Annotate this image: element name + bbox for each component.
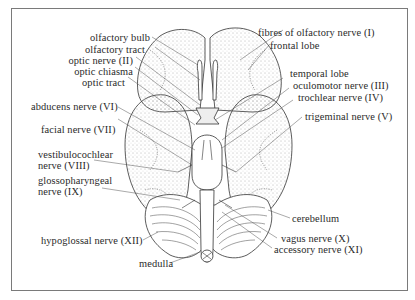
label-abducens-nerve: abducens nerve (VI) xyxy=(31,101,118,112)
label-facial-nerve: facial nerve (VII) xyxy=(41,124,115,135)
optic-chiasma xyxy=(196,108,219,124)
label-accessory-nerve: accessory nerve (XI) xyxy=(274,244,363,255)
label-trochlear-nerve: trochlear nerve (IV) xyxy=(298,92,383,103)
label-vestibulocochlear-line2: nerve (VIII) xyxy=(38,160,113,171)
label-vestibulocochlear-nerve: vestibulocochlear nerve (VIII) xyxy=(38,149,113,171)
medulla xyxy=(200,190,214,262)
label-optic-tract: optic tract xyxy=(82,77,125,88)
label-optic-nerve: optic nerve (II) xyxy=(69,55,134,66)
olfactory-tracts xyxy=(197,60,217,100)
label-olfactory-tract: olfactory tract xyxy=(85,44,145,55)
pons xyxy=(192,135,222,190)
label-vagus-nerve: vagus nerve (X) xyxy=(281,233,349,244)
label-temporal-lobe: temporal lobe xyxy=(290,68,349,79)
label-oculomotor-nerve: oculomotor nerve (III) xyxy=(293,80,389,91)
label-frontal-lobe: frontal lobe xyxy=(270,40,319,51)
label-glossopharyngeal-nerve: glossopharyngeal nerve (IX) xyxy=(38,175,112,197)
label-vestibulocochlear-line1: vestibulocochlear xyxy=(38,149,113,160)
label-optic-chiasma: optic chiasma xyxy=(74,66,133,77)
label-glossopharyngeal-line1: glossopharyngeal xyxy=(38,175,112,186)
label-glossopharyngeal-line2: nerve (IX) xyxy=(38,186,112,197)
label-medulla: medulla xyxy=(139,258,173,269)
label-fibres-olfactory-nerve: fibres of olfactory nerve (I) xyxy=(258,27,375,38)
label-trigeminal-nerve: trigeminal nerve (V) xyxy=(305,111,392,122)
label-olfactory-bulb: olfactory bulb xyxy=(90,32,150,43)
label-hypoglossal-nerve: hypoglossal nerve (XII) xyxy=(41,235,143,246)
label-cerebellum: cerebellum xyxy=(292,213,339,224)
